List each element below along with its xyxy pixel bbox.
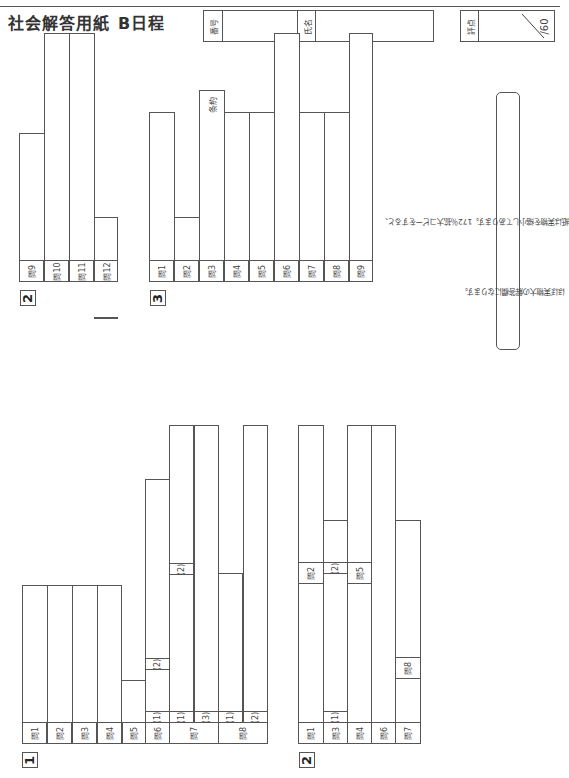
s3-label-q1: 問1 [149,260,174,282]
s3-answer-q2[interactable] [174,217,200,261]
s1-q7-sub2: (2) [169,563,194,575]
s2-answer-q4[interactable] [347,583,372,723]
section-1-number: 1 [22,752,38,768]
s2-q3-sub1: (1) [323,711,348,723]
s3-label-q3: 問3 [199,260,224,282]
s2-answer-q3-1[interactable] [323,573,348,712]
s3-answer-q6[interactable] [274,33,300,261]
s1-answer-q8-1[interactable] [218,573,243,712]
s1-answer-q1[interactable] [22,585,48,723]
s2-label-q10: 問10 [44,260,69,282]
score-max: /60 [536,14,552,38]
score-label: 評点 [460,10,479,42]
page-title: 社会解答用紙 [8,10,110,34]
s2-label-q6: 問6 [371,722,396,744]
s1-label-q3: 問3 [72,722,97,744]
s2-answer-q12[interactable] [94,317,118,319]
s2-label-q2: 問2 [298,562,324,584]
s1-answer-q7-2[interactable] [169,425,194,564]
s2-label-q1: 問1 [298,722,324,744]
s1-label-q5: 問5 [122,722,146,744]
s2-answer-q1[interactable] [298,583,324,723]
s2-answer-q11[interactable] [69,33,95,261]
s3-q3-treaty-suffix: 条約 [204,92,220,116]
s2-q3-sub2: (2) [323,562,348,574]
note-box: （注）この解答用紙は実物を縮小してあります。172％拡大コピーをすると、ほぼ実物… [496,92,520,350]
s1-answer-q5[interactable] [121,680,146,723]
s1-label-q8: 問8 [218,722,268,744]
s1-label-q7: 問7 [169,722,219,744]
s1-q8-sub2: (2) [243,711,268,723]
s1-q7-sub1: (1) [169,711,194,723]
schedule-label: B日程 [118,10,165,34]
s3-label-q6: 問6 [274,260,299,282]
s3-label-q8: 問8 [324,260,349,282]
s1-label-q4: 問4 [97,722,122,744]
s2-label-q5: 問5 [347,562,372,584]
s2-answer-q8[interactable] [395,520,421,658]
s3-label-q7: 問7 [299,260,324,282]
s1-label-q6: 問6 [145,722,170,744]
s2-answer-q5[interactable] [347,425,372,563]
s1-answer-q2[interactable] [47,585,73,723]
s2-label-q3: 問3 [323,722,348,744]
s1-answer-q3[interactable] [72,585,98,723]
s1-q7-sub3: (3) [194,711,219,723]
section-2-upper-number: 2 [20,290,36,306]
s2-answer-q9[interactable] [19,133,45,261]
s1-q6-sub1: (1) [145,711,170,723]
s2-label-q12: 問12 [94,260,118,282]
s2-answer-q12b[interactable] [94,217,118,261]
s3-answer-q1[interactable] [149,112,175,261]
s1-answer-q6-1[interactable] [145,669,170,712]
s2-label-q9: 問9 [19,260,44,282]
s3-answer-q4[interactable] [224,112,250,261]
s1-answer-q4[interactable] [97,585,122,723]
s2-answer-q3-2[interactable] [323,520,348,563]
s3-answer-q5[interactable] [249,112,275,261]
s3-label-q2: 問2 [174,260,199,282]
s2-label-q11: 問11 [69,260,94,282]
s1-answer-q7-1[interactable] [169,574,194,712]
s1-label-q2: 問2 [47,722,72,744]
section-2-number: 2 [299,752,315,768]
s3-label-q4: 問4 [224,260,249,282]
section-3-number: 3 [150,290,166,306]
s1-q6-sub2: (2) [145,658,170,670]
s2-answer-q7[interactable] [395,678,421,723]
number-label: 番号 [203,10,223,42]
s2-answer-q10[interactable] [44,33,70,261]
s2-answer-q6[interactable] [371,425,396,723]
s1-answer-q6-2[interactable] [145,479,170,659]
s3-label-q9: 問9 [349,260,373,282]
s3-label-q5: 問5 [249,260,274,282]
s2-label-q7: 問7 [395,722,421,744]
s1-answer-q7-3[interactable] [194,425,219,712]
s1-answer-q8-2[interactable] [243,425,268,712]
s2-answer-q2[interactable] [298,425,324,563]
s1-q8-sub1: (1) [218,711,243,723]
s3-answer-q8[interactable] [324,112,350,261]
s1-label-q1: 問1 [22,722,47,744]
s3-answer-q9[interactable] [349,33,373,261]
header-rule [0,6,560,7]
s3-answer-q7[interactable] [299,112,325,261]
s2-label-q8: 問8 [395,657,421,679]
s2-label-q4: 問4 [347,722,372,744]
